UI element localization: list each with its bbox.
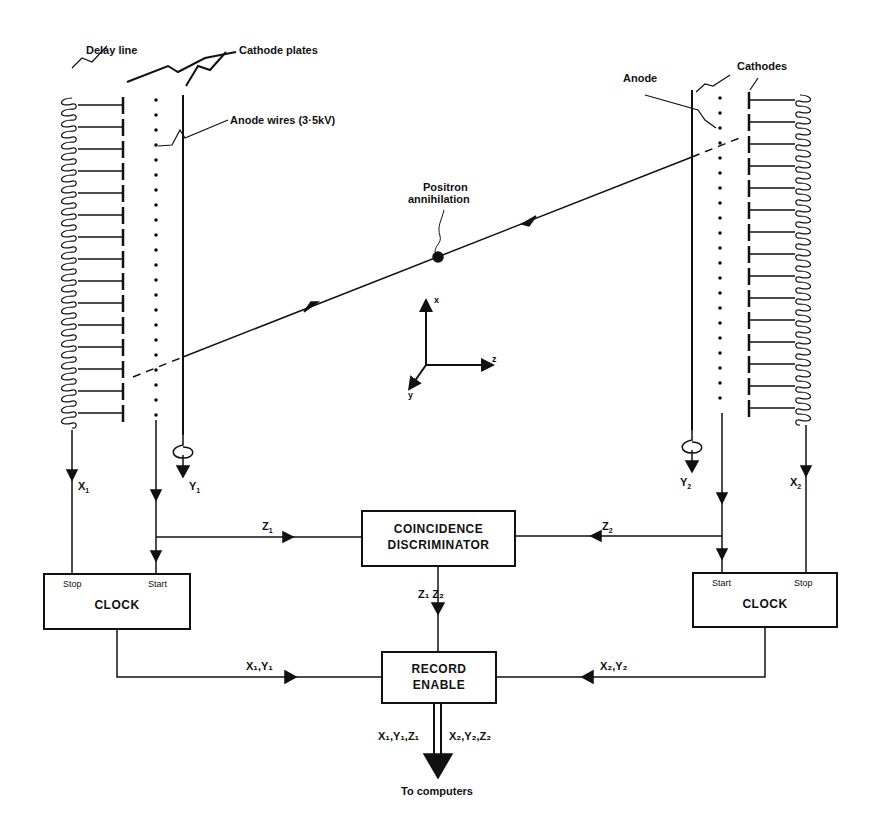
clock-right-stop: Stop <box>794 578 813 588</box>
gamma-path-dashed-left <box>133 357 183 377</box>
z1-arrow <box>283 532 293 542</box>
x2y2-line <box>495 627 765 677</box>
x2y2-arrow <box>582 671 593 683</box>
z2-arrow <box>591 531 601 541</box>
cathode-plates-pointer-1 <box>127 52 236 82</box>
cathodes-pointer-1 <box>696 75 730 92</box>
signal-z1z2: Z₁ Z₂ <box>418 588 444 600</box>
y2-pickup-loop <box>682 430 702 453</box>
anode-pointer <box>645 95 716 128</box>
signal-x1y1: X₁,Y₁ <box>246 660 273 672</box>
left-delay-line-coil <box>62 98 77 428</box>
gamma-arrow-right <box>522 216 536 226</box>
gamma-arrow-left <box>304 302 318 312</box>
signal-output-left: X₁,Y₁,Z₁ <box>378 730 419 742</box>
coincidence-line1: COINCIDENCE <box>363 522 514 536</box>
label-to-computers: To computers <box>401 785 473 797</box>
label-anode-wires: Anode wires (3·5kV) <box>230 114 335 126</box>
signal-z2: Z2 <box>602 520 613 534</box>
record-enable-box: RECORD ENABLE <box>381 651 497 704</box>
annihilation-pointer <box>435 210 444 252</box>
clock-left-title: CLOCK <box>45 598 189 612</box>
output-arrow <box>424 754 452 778</box>
clock-right-start: Start <box>712 578 731 588</box>
gamma-path-dashed-right <box>692 137 742 157</box>
label-delay-line: Delay line <box>86 44 137 56</box>
signal-output-right: X₂,Y₂,Z₂ <box>449 730 491 742</box>
right-delay-line-coil <box>796 95 811 425</box>
left-cathode-plate <box>78 97 123 422</box>
y2-arrow <box>686 461 698 472</box>
axis-y <box>412 365 426 385</box>
x1y1-arrow <box>285 671 296 683</box>
clock-left-box: Stop Start CLOCK <box>43 573 191 630</box>
z1z2-arrow <box>432 603 444 614</box>
record-line2: ENABLE <box>383 678 495 692</box>
clock-right-title: CLOCK <box>694 597 836 611</box>
label-cathode-plates: Cathode plates <box>239 44 318 56</box>
clock-right-box: Start Stop CLOCK <box>692 572 838 628</box>
cathodes-pointer-2 <box>750 78 758 90</box>
signal-y2: Y2 <box>680 476 691 490</box>
axis-label-z: z <box>492 354 497 364</box>
z1-arrow-down-2 <box>151 551 161 561</box>
left-anode-wires <box>154 98 158 417</box>
annihilation-point <box>433 252 443 262</box>
record-line1: RECORD <box>383 662 495 676</box>
y1-arrow <box>177 466 189 477</box>
axis-label-x: x <box>434 295 439 305</box>
x1-arrow <box>67 470 77 480</box>
clock-left-start: Start <box>148 579 167 589</box>
signal-z1: Z1 <box>262 520 273 534</box>
z2-arrow-down-1 <box>717 493 727 503</box>
label-positron: Positron <box>423 181 468 193</box>
right-cathode-plate <box>749 92 795 417</box>
y1-pickup-loop <box>173 435 193 458</box>
label-annihilation: annihilation <box>408 193 470 205</box>
z1-arrow-down-1 <box>151 490 161 500</box>
label-cathodes: Cathodes <box>737 60 787 72</box>
z2-arrow-down-2 <box>717 549 727 559</box>
signal-x2y2: X₂,Y₂ <box>600 660 628 672</box>
coincidence-line2: DISCRIMINATOR <box>363 538 514 552</box>
coincidence-discriminator-box: COINCIDENCE DISCRIMINATOR <box>361 510 516 567</box>
anode-wires-pointer <box>158 120 228 146</box>
pet-detector-diagram <box>0 0 881 833</box>
clock-left-stop: Stop <box>63 579 82 589</box>
label-anode: Anode <box>623 72 657 84</box>
right-anode-wires <box>718 96 722 400</box>
signal-x2: X2 <box>790 476 801 490</box>
signal-x1: X1 <box>78 480 89 494</box>
signal-y1: Y1 <box>189 480 200 494</box>
axis-label-y: y <box>408 390 413 400</box>
x2-arrow <box>801 466 811 476</box>
